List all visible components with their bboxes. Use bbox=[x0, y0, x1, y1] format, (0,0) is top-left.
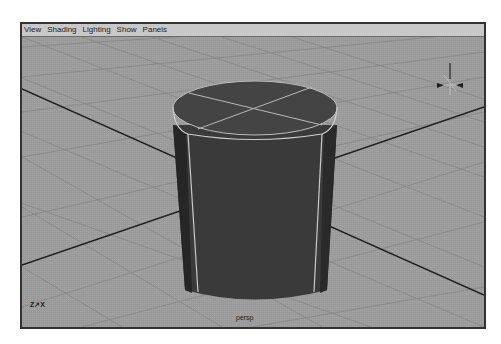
camera-name-label: persp bbox=[236, 314, 254, 321]
menu-panels[interactable]: Panels bbox=[143, 24, 167, 36]
menu-show[interactable]: Show bbox=[117, 24, 137, 36]
menu-shading[interactable]: Shading bbox=[47, 24, 76, 36]
menu-lighting[interactable]: Lighting bbox=[83, 24, 111, 36]
panel-menubar: View Shading Lighting Show Panels bbox=[22, 24, 484, 37]
axis-orientation-label: Z↗X bbox=[30, 301, 45, 309]
menu-view[interactable]: View bbox=[24, 24, 41, 36]
cylinder-mesh bbox=[173, 81, 337, 300]
viewport-panel[interactable]: View Shading Lighting Show Panels bbox=[20, 22, 486, 329]
3d-scene-canvas[interactable] bbox=[22, 37, 484, 327]
